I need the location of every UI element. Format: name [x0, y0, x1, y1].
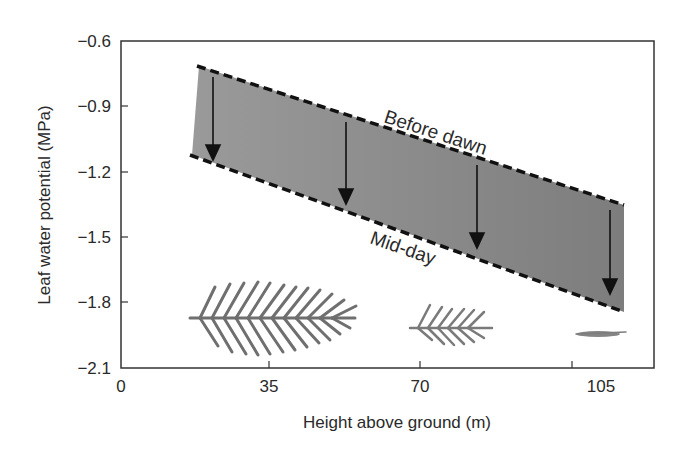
y-tick-label: −2.1 [77, 359, 111, 378]
x-axis [269, 361, 572, 368]
x-tick-label: 35 [260, 377, 279, 396]
medium-foliage-illustration [410, 305, 492, 345]
x-tick-label: 0 [116, 377, 125, 396]
chart: −0.6 −0.9 −1.2 −1.5 −1.8 −2.1 0 35 70 10… [0, 0, 692, 454]
y-tick-label: −1.5 [77, 228, 111, 247]
y-tick-label: −1.2 [77, 163, 111, 182]
y-axis [121, 106, 128, 302]
x-tick-label: 70 [411, 377, 430, 396]
x-axis-label: Height above ground (m) [303, 413, 491, 432]
y-tick-label: −0.6 [77, 32, 111, 51]
large-foliage-illustration [190, 282, 356, 355]
y-tick-label: −1.8 [77, 293, 111, 312]
x-tick-label: 105 [587, 377, 615, 396]
small-foliage-illustration [576, 331, 626, 337]
y-tick-label: −0.9 [77, 97, 111, 116]
y-axis-label: Leaf water potential (MPa) [35, 105, 54, 304]
water-potential-band [192, 66, 624, 312]
